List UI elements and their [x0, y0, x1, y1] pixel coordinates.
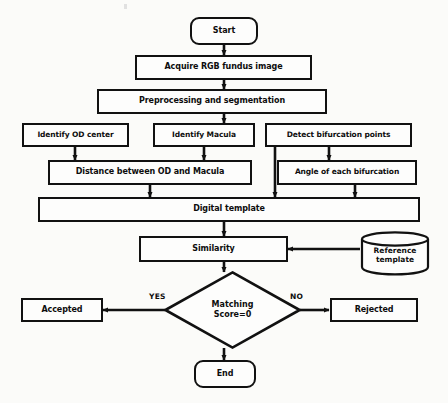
node-reference-template-label: Reference template: [372, 247, 419, 265]
node-accepted: Accepted: [21, 298, 103, 322]
node-similarity-label: Similarity: [190, 245, 236, 254]
node-distance-between-od-and-macula: Distance between OD and Macula: [48, 160, 252, 185]
node-reference-template: Reference template: [359, 230, 431, 276]
node-start-label: Start: [211, 27, 237, 36]
node-matching-score-decision: Matching Score=0: [163, 270, 302, 350]
node-accepted-label: Accepted: [39, 306, 84, 315]
node-preprocessing-and-segmentation: Preprocessing and segmentation: [97, 89, 327, 114]
node-start: Start: [190, 17, 258, 45]
edge-label-no: NO: [290, 292, 303, 301]
node-detect-bifurcation-label: Detect bifurcation points: [285, 131, 393, 139]
node-detect-bifurcation-points: Detect bifurcation points: [265, 123, 412, 147]
node-identify-macula: Identify Macula: [153, 123, 255, 147]
node-digital-template: Digital template: [38, 197, 420, 222]
node-angle-of-each-bifurcation: Angle of each bifurcation: [277, 160, 417, 185]
flowchart-canvas: Start Acquire RGB fundus image Preproces…: [0, 0, 448, 403]
node-angle-label: Angle of each bifurcation: [293, 168, 401, 176]
edge-label-yes: YES: [149, 292, 166, 301]
node-identify-macula-label: Identify Macula: [170, 131, 238, 139]
node-distance-label: Distance between OD and Macula: [74, 168, 227, 177]
node-identify-od-center: Identify OD center: [22, 123, 129, 147]
node-similarity: Similarity: [139, 236, 288, 262]
node-preprocess-label: Preprocessing and segmentation: [137, 97, 287, 106]
scan-artifact: [124, 4, 127, 9]
node-digital-template-label: Digital template: [191, 205, 267, 214]
node-end-label: End: [215, 370, 236, 379]
node-acquire-rgb-fundus-image: Acquire RGB fundus image: [135, 55, 312, 80]
node-decision-label: Matching Score=0: [210, 300, 256, 320]
node-rejected-label: Rejected: [353, 306, 396, 315]
node-rejected: Rejected: [330, 298, 418, 322]
node-end: End: [194, 360, 256, 388]
node-identify-od-label: Identify OD center: [35, 131, 115, 139]
node-acquire-label: Acquire RGB fundus image: [163, 63, 285, 72]
